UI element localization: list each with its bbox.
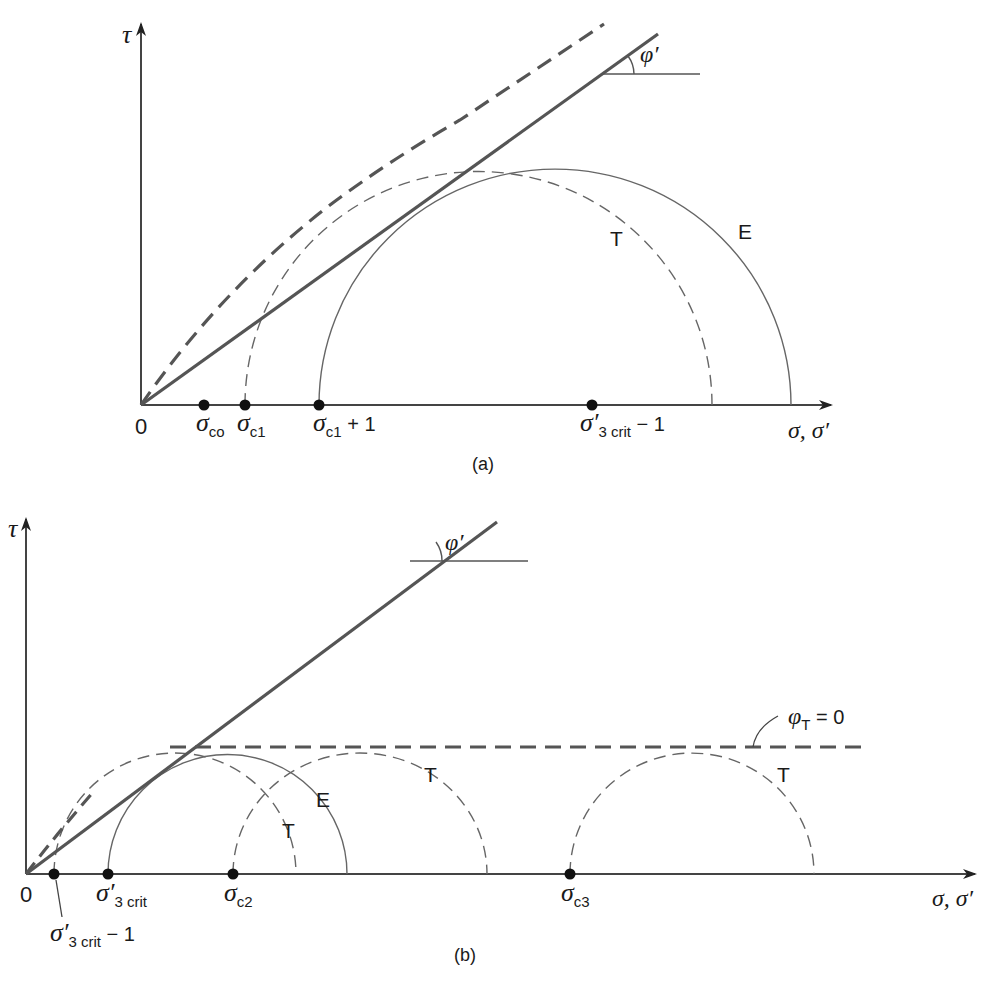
point-sigma3crit-minus-1-b xyxy=(49,869,60,880)
total-stress-circle-a xyxy=(245,172,712,406)
phi-angle-arc-b xyxy=(436,542,442,561)
sigma3crit-minus-1-label-b: σ′3 crit − 1 xyxy=(50,920,135,949)
total-stress-circle-b1 xyxy=(54,753,296,874)
sigma3crit-minus-1-label-a: σ′3 crit − 1 xyxy=(580,410,665,439)
origin-label-a: 0 xyxy=(135,416,147,438)
sigma-c1-label: σc1 xyxy=(237,410,266,439)
total-circle-label-a: T xyxy=(610,228,623,249)
caption-a: (a) xyxy=(472,455,494,473)
sigma-c3-label: σc3 xyxy=(561,880,590,909)
sigma-axis-label-a: σ, σ′ xyxy=(788,418,829,442)
sigma3crit-minus-1-leader xyxy=(56,880,62,917)
figure-a xyxy=(141,24,831,411)
effective-stress-circle-b xyxy=(108,755,347,875)
sigma-co-label: σco xyxy=(196,410,225,439)
tau-axis-label-a: τ xyxy=(122,22,131,48)
phi-prime-label-b: φ′ xyxy=(445,530,464,554)
phi-prime-label-a: φ′ xyxy=(640,42,659,66)
mohr-circle-diagrams xyxy=(0,0,1002,986)
phi-angle-arc-a xyxy=(628,56,634,74)
effective-stress-circle-a xyxy=(319,169,791,405)
effective-circle-label-b: E xyxy=(316,789,330,810)
total-failure-envelope-a xyxy=(141,24,604,405)
total-circle-label-b3: T xyxy=(777,764,790,785)
tau-axis-label-b: τ xyxy=(8,516,17,542)
total-circle-label-b2: T xyxy=(424,764,437,785)
sigma-c2-label: σc2 xyxy=(224,880,253,909)
sigma-axis-label-b: σ, σ′ xyxy=(932,886,973,910)
total-circle-label-b1: T xyxy=(282,820,295,841)
effective-failure-envelope-a xyxy=(141,34,658,405)
phi-t-leader xyxy=(753,716,778,747)
caption-b: (b) xyxy=(454,946,476,964)
phi-t-label: φT = 0 xyxy=(788,704,844,732)
total-stress-circle-b2 xyxy=(233,753,487,874)
effective-failure-envelope-b xyxy=(26,522,497,874)
origin-label-b: 0 xyxy=(20,884,32,906)
sigma-c1-plus-1-label: σc1 + 1 xyxy=(313,410,376,439)
sigma3crit-label: σ′3 crit xyxy=(96,880,147,909)
effective-circle-label-a: E xyxy=(738,221,752,242)
